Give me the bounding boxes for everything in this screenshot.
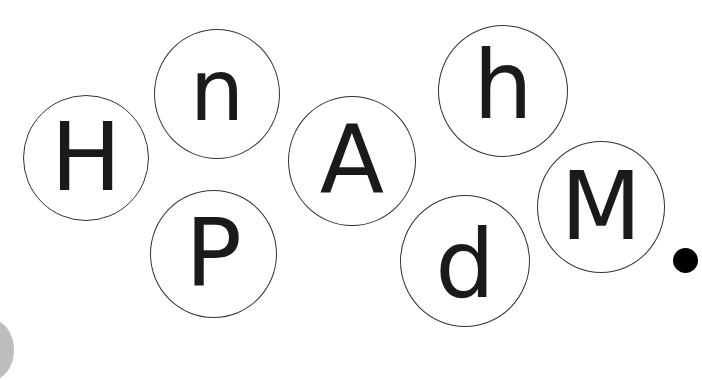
letter-n: n — [190, 47, 245, 133]
letter-A: A — [320, 114, 384, 208]
letter-d: d — [435, 218, 495, 312]
letter-circle-M: M — [537, 141, 665, 273]
period-dot — [673, 248, 698, 273]
letter-circle-P: P — [150, 190, 277, 318]
letter-M: M — [560, 160, 641, 254]
letter-circle-H: H — [23, 95, 149, 221]
letter-circle-d: d — [400, 195, 530, 327]
letter-P: P — [185, 207, 242, 301]
letter-H: H — [51, 111, 122, 205]
corner-shape — [0, 320, 14, 380]
letter-circle-A: A — [288, 96, 416, 226]
letter-circle-n: n — [154, 29, 280, 159]
letter-h: h — [473, 39, 533, 133]
letter-circle-h: h — [438, 25, 568, 157]
